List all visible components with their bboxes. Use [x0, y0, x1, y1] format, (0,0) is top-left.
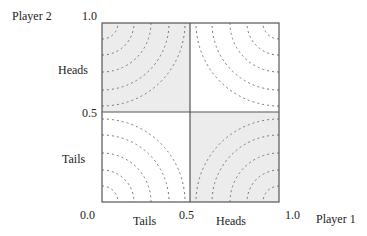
contours-bottom-left — [102, 119, 185, 202]
contours-top-right — [196, 23, 279, 106]
region-top-left — [102, 23, 190, 112]
payoff-diagram — [0, 0, 367, 236]
region-bottom-right — [190, 112, 279, 202]
